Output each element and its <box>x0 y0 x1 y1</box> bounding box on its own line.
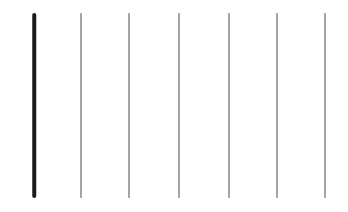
vertical-line-7 <box>325 13 326 198</box>
vertical-line-4 <box>179 13 180 198</box>
plot-area <box>0 0 348 212</box>
vertical-line-6 <box>277 13 278 198</box>
vertical-line-2 <box>81 13 82 198</box>
figure-canvas <box>0 0 348 212</box>
vertical-line-5 <box>229 13 230 198</box>
vertical-line-1 <box>32 13 36 198</box>
vertical-line-3 <box>129 13 130 198</box>
